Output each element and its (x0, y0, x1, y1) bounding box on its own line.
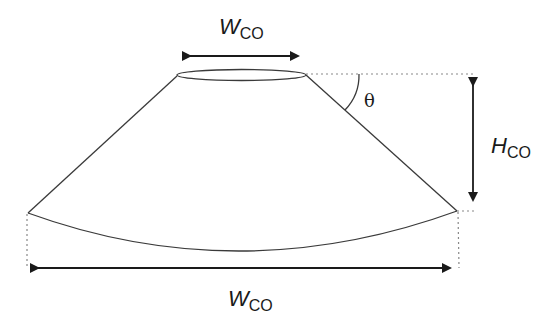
bottom-width-subscript: CO (249, 297, 273, 314)
bottom-width-label: WCO (228, 286, 273, 312)
height-label: HCO (491, 133, 531, 159)
cone-bottom-curve (28, 211, 457, 251)
height-symbol: H (491, 133, 507, 158)
cone-top-ellipse (177, 70, 306, 81)
cone-left-side (28, 76, 177, 213)
angle-label: θ (364, 90, 375, 111)
right-dotted-drop (458, 212, 459, 268)
top-width-symbol: W (219, 14, 240, 39)
angle-arc (345, 74, 359, 110)
bottom-width-symbol: W (228, 286, 249, 311)
height-subscript: CO (507, 144, 531, 161)
top-width-label: WCO (219, 14, 264, 40)
cone-diagram (0, 0, 552, 336)
cone-right-side (306, 75, 457, 211)
top-width-subscript: CO (240, 25, 264, 42)
